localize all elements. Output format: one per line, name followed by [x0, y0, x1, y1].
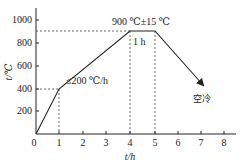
y-ticks: 200 400 600 800 1000 [12, 14, 39, 116]
hold-time-annotation: 1 h [133, 36, 146, 47]
x-tick-label: 7 [199, 137, 204, 148]
hold-temperature-annotation: 900 ℃±15 ℃ [112, 16, 170, 27]
x-tick-label: 1 [57, 137, 62, 148]
origin-label: 0 [32, 137, 37, 148]
ramp-rate-annotation: ≤200 ℃/h [66, 75, 108, 86]
x-tick-label: 2 [81, 137, 86, 148]
x-axis-label: t/h [125, 151, 136, 162]
y-tick-label: 1000 [12, 14, 32, 25]
heat-treatment-curve [36, 31, 203, 134]
x-tick-label: 4 [128, 137, 133, 148]
y-tick-label: 200 [17, 105, 32, 116]
heat-treatment-chart: 200 400 600 800 1000 0 1 2 3 4 5 6 7 8 t… [0, 0, 242, 163]
x-tick-label: 8 [222, 137, 227, 148]
x-tick-label: 6 [176, 137, 181, 148]
y-axis-label: t/℃ [3, 64, 14, 81]
x-tick-label: 3 [104, 137, 109, 148]
y-tick-label: 800 [17, 37, 32, 48]
y-tick-label: 600 [17, 60, 32, 71]
air-cooling-annotation: 空冷 [193, 93, 211, 104]
x-tick-label: 5 [153, 137, 158, 148]
y-tick-label: 400 [17, 83, 32, 94]
